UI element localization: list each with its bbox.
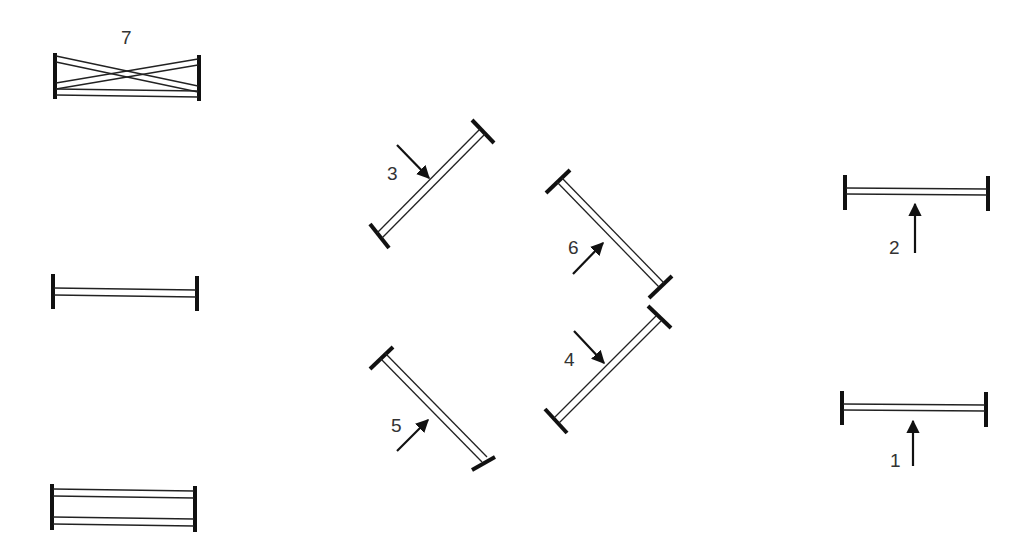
fence-7-number: 7 — [121, 27, 132, 48]
fence-5-number: 5 — [391, 415, 402, 436]
course-diagram: 7 3 5 — [0, 0, 1036, 552]
fence-4-rail — [559, 321, 661, 423]
fence-2: 2 — [845, 175, 988, 258]
fence-bottom-left-rail — [53, 496, 194, 498]
fence-5-lower-post — [472, 457, 495, 470]
fence-4-number: 4 — [564, 349, 575, 370]
fence-2-rail — [846, 194, 987, 195]
fence-4-lower-post — [545, 409, 567, 433]
fence-6: 6 — [546, 170, 672, 298]
fence-5: 5 — [370, 347, 495, 470]
fence-bottom-left-rail — [53, 517, 194, 519]
fence-7-rail — [56, 59, 198, 83]
fence-1-rail — [843, 410, 985, 411]
fence-6-number: 6 — [568, 237, 579, 258]
fence-middle-left-rail — [54, 295, 196, 297]
fence-2-rail — [846, 188, 987, 189]
fence-7-rail — [56, 65, 198, 89]
fence-4-direction-arrow-icon — [574, 331, 604, 363]
fence-6-rail — [562, 178, 664, 283]
fence-7-rail — [56, 89, 198, 91]
fence-4-upper-post — [648, 306, 671, 328]
fence-6-upper-post — [546, 170, 570, 193]
fence-1: 1 — [842, 391, 986, 471]
fence-2-number: 2 — [889, 237, 900, 258]
fence-6-rail — [557, 182, 659, 287]
fence-bottom-left — [52, 484, 195, 532]
fence-4: 4 — [545, 306, 671, 433]
fence-5-rail — [385, 353, 487, 457]
fence-7-rail — [56, 95, 198, 97]
fence-bottom-left-rail — [53, 524, 194, 526]
fence-middle-left — [53, 274, 197, 311]
fence-3-rail — [382, 134, 485, 238]
fence-7: 7 — [55, 27, 199, 101]
fence-middle-left-rail — [54, 288, 196, 290]
fence-3-number: 3 — [387, 163, 398, 184]
fence-1-rail — [843, 404, 985, 405]
fence-5-rail — [380, 358, 482, 462]
fence-1-number: 1 — [890, 450, 901, 471]
fence-3-direction-arrow-icon — [397, 145, 429, 178]
fence-5-direction-arrow-icon — [397, 420, 428, 451]
fence-3: 3 — [370, 120, 494, 248]
fence-3-lower-post — [370, 224, 389, 248]
fence-3-upper-post — [472, 120, 494, 143]
fence-bottom-left-rail — [53, 489, 194, 491]
